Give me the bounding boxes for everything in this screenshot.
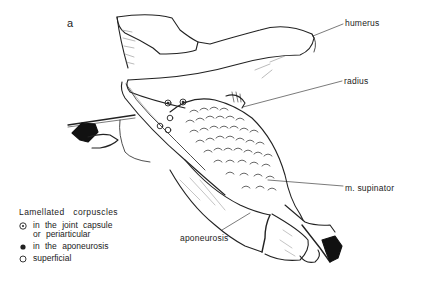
legend-title: Lamellated corpuscles: [19, 207, 118, 217]
legend-text: in the aponeurosis: [33, 242, 108, 251]
legend-item-superficial: superficial: [19, 254, 118, 263]
label-aponeurosis: aponeurosis: [180, 233, 229, 243]
supinator-muscle: [170, 99, 303, 220]
label-radius: radius: [344, 76, 368, 86]
filled-dot-icon: [19, 243, 27, 251]
leader-lines: [222, 24, 343, 230]
humerus-shape: [117, 15, 198, 54]
muscle-fiber-pattern: [186, 107, 276, 190]
open-circle-icon: [19, 255, 27, 263]
joint-capsule-corpuscles: [165, 99, 186, 106]
legend-item-aponeurosis: in the aponeurosis: [19, 242, 118, 251]
anatomical-figure: a humerus radius m. supinator aponeurosi…: [0, 0, 422, 288]
circle-dot-icon: [19, 222, 27, 230]
label-supinator: m. supinator: [345, 183, 394, 193]
label-humerus: humerus: [345, 18, 379, 28]
legend-text: or periarticular: [33, 230, 112, 239]
legend: Lamellated corpuscles in the joint capsu…: [19, 207, 118, 266]
panel-letter: a: [67, 17, 73, 29]
legend-item-joint-capsule: in the joint capsule or periarticular: [19, 221, 118, 239]
legend-text: superficial: [33, 254, 71, 263]
rotation-arrow-right: [322, 236, 342, 262]
